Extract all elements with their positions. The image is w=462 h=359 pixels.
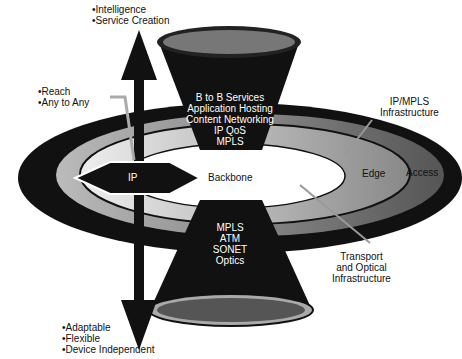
label-transport: Transport [332, 251, 391, 262]
label-reach: Reach [38, 86, 89, 97]
left-labels: Reach Any to Any [38, 86, 89, 108]
label-service-creation: Service Creation [92, 15, 169, 26]
label-access: Access [406, 167, 438, 178]
label-device-independent: Device Independent [62, 344, 154, 355]
bottom-labels: Adaptable Flexible Device Independent [62, 322, 154, 355]
label-ip-qos: IP QoS [178, 125, 282, 136]
label-mpls-upper: MPLS [178, 136, 282, 147]
upper-funnel-labels: B to B Services Application Hosting Cont… [178, 92, 282, 147]
label-infrastructure-2: Infrastructure [332, 273, 391, 284]
label-flexible: Flexible [62, 333, 154, 344]
top-labels: Intelligence Service Creation [92, 4, 169, 26]
label-and-optical: and Optical [332, 262, 391, 273]
transport-callout: Transport and Optical Infrastructure [332, 251, 391, 284]
label-backbone: Backbone [208, 172, 252, 183]
label-intelligence: Intelligence [92, 4, 169, 15]
label-mpls-lower: MPLS [200, 222, 260, 233]
label-edge: Edge [362, 168, 385, 179]
label-app-hosting: Application Hosting [178, 103, 282, 114]
label-sonet: SONET [200, 244, 260, 255]
label-ip-mpls: IP/MPLS [380, 96, 439, 107]
ip-mpls-callout: IP/MPLS Infrastructure [380, 96, 439, 118]
label-adaptable: Adaptable [62, 322, 154, 333]
label-b2b: B to B Services [178, 92, 282, 103]
label-content-networking: Content Networking [178, 114, 282, 125]
label-infrastructure-1: Infrastructure [380, 107, 439, 118]
label-any-to-any: Any to Any [38, 97, 89, 108]
label-ip: IP [128, 172, 137, 183]
label-optics: Optics [200, 255, 260, 266]
lower-funnel-labels: MPLS ATM SONET Optics [200, 222, 260, 266]
label-atm: ATM [200, 233, 260, 244]
